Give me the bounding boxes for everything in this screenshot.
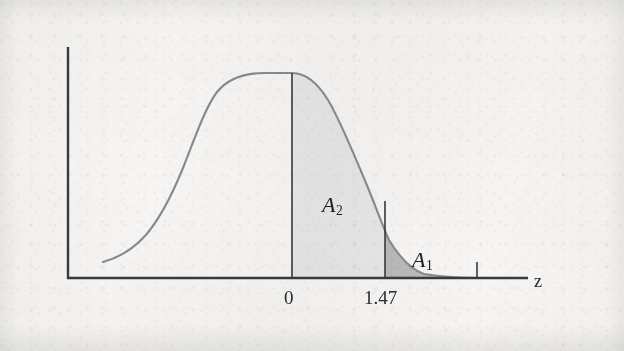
region-label-a2-subscript: 2 [335, 203, 342, 218]
x-tick-label-0: 0 [284, 288, 294, 307]
region-label-a2: A2 [322, 194, 343, 218]
x-axis-title: z [534, 272, 542, 290]
region-label-a2-base: A [322, 192, 335, 217]
region-label-a1-subscript: 1 [425, 258, 432, 273]
region-label-a1: A1 [412, 249, 433, 273]
normal-distribution-figure: 0 1.47 z A2 A1 [0, 0, 624, 351]
x-tick-label-1-47: 1.47 [364, 288, 397, 307]
distribution-plot [0, 0, 624, 351]
region-label-a1-base: A [412, 247, 425, 272]
